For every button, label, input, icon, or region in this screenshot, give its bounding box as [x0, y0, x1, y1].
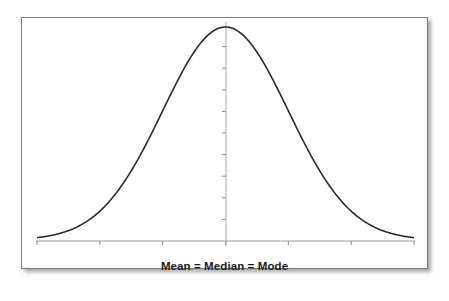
- chart-figure: Mean = Median = Mode: [0, 0, 449, 301]
- y-axis-ticks: [222, 47, 226, 220]
- normal-distribution-plot: [0, 0, 449, 301]
- mean-median-mode-label: Mean = Median = Mode: [0, 260, 449, 272]
